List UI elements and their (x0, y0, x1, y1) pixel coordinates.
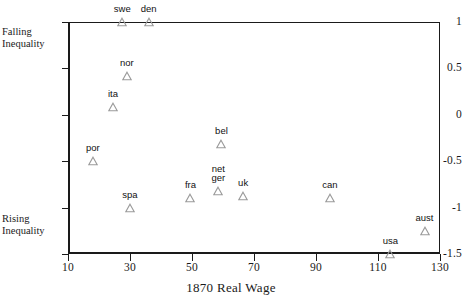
triangle-marker-icon (122, 71, 132, 81)
y-tick-mark (62, 115, 69, 116)
y-tick-label: 0.5 (406, 62, 462, 74)
y-tick-mark (62, 208, 69, 209)
x-tick-mark (440, 254, 441, 261)
x-tick-mark (68, 254, 69, 261)
falling-inequality-note: Falling Inequality (2, 26, 64, 49)
triangle-marker-icon (238, 191, 248, 201)
point-label-can: can (308, 180, 352, 190)
x-tick-mark (192, 254, 193, 261)
x-tick-label: 50 (172, 262, 212, 274)
triangle-marker-icon (420, 226, 430, 236)
y-tick-mark (62, 22, 69, 23)
triangle-marker-icon (117, 17, 127, 27)
x-tick-label: 10 (48, 262, 88, 274)
x-tick-label: 70 (234, 262, 274, 274)
x-tick-label: 130 (420, 262, 460, 274)
rising-inequality-line1: Rising (2, 213, 64, 225)
point-label-bel: bel (199, 126, 243, 136)
point-label-aust: aust (403, 213, 447, 223)
triangle-marker-icon (385, 249, 395, 259)
falling-inequality-line1: Falling (2, 26, 64, 38)
triangle-marker-icon (216, 139, 226, 149)
triangle-marker-icon (325, 193, 335, 203)
y-tick-label: -1 (406, 202, 462, 214)
point-label-por: por (71, 143, 115, 153)
rising-inequality-note: Rising Inequality (2, 213, 64, 236)
x-tick-mark (316, 254, 317, 261)
point-label-ita: ita (91, 89, 135, 99)
x-tick-label: 30 (110, 262, 150, 274)
x-tick-label: 110 (358, 262, 398, 274)
point-label-uk: uk (221, 178, 265, 188)
point-label-den: den (127, 4, 171, 14)
x-tick-mark (130, 254, 131, 261)
y-tick-mark (62, 68, 69, 69)
x-axis-title: 1870 Real Wage (0, 280, 462, 296)
point-label-usa: usa (368, 236, 412, 246)
triangle-marker-icon (125, 203, 135, 213)
rising-inequality-line2: Inequality (2, 225, 64, 237)
triangle-marker-icon (88, 156, 98, 166)
y-tick-label: 1 (406, 16, 462, 28)
triangle-marker-icon (144, 17, 154, 27)
y-tick-label: -1.5 (406, 248, 462, 260)
x-tick-label: 90 (296, 262, 336, 274)
falling-inequality-line2: Inequality (2, 38, 64, 50)
x-tick-mark (378, 254, 379, 261)
point-label-spa: spa (108, 190, 152, 200)
point-label-fra: fra (168, 180, 212, 190)
triangle-marker-icon (108, 102, 118, 112)
y-tick-mark (62, 161, 69, 162)
y-tick-label: 0 (406, 109, 462, 121)
y-tick-label: -0.5 (406, 155, 462, 167)
point-label-nor: nor (105, 58, 149, 68)
x-tick-mark (254, 254, 255, 261)
scatter-chart: 10.50-0.5-1-1.5 1030507090110130 Falling… (0, 0, 462, 307)
triangle-marker-icon (185, 193, 195, 203)
